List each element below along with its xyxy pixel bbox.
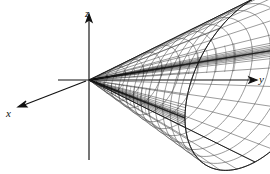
z-axis-label: z	[85, 8, 89, 19]
x-axis-label: x	[6, 108, 11, 119]
cone-surface-plot	[0, 0, 270, 174]
x-axis-line	[24, 81, 86, 105]
y-axis-label: y	[259, 74, 264, 85]
mesh-ring-upper	[178, 0, 270, 115]
crease-line	[89, 80, 185, 111]
upper-cone-surface	[89, 0, 270, 118]
silhouette-ruling	[89, 80, 185, 118]
cone-silhouette	[89, 0, 270, 170]
math-figure-canvas: z y x	[0, 0, 270, 174]
